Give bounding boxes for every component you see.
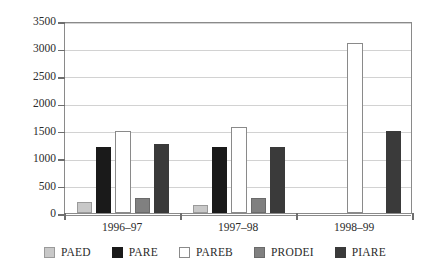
bar-group-1: [65, 23, 181, 213]
bar-paed-2: [193, 205, 208, 213]
y-tick-label-1000: 1000: [4, 153, 56, 165]
y-tick-label-2000: 2000: [4, 98, 56, 110]
bar-group-3: [297, 23, 413, 213]
legend-item-piare[interactable]: PIARE: [335, 247, 386, 259]
bar-paed-1: [77, 202, 92, 213]
y-tick-label-3000: 3000: [4, 43, 56, 55]
legend-swatch-paed-icon: [44, 247, 55, 258]
x-tick-start: [64, 213, 65, 220]
y-tick-label-2500: 2500: [4, 71, 56, 83]
y-tick-1500: [58, 132, 65, 133]
x-tick-label-1: 1996–97: [64, 222, 180, 234]
legend-swatch-piare-icon: [335, 247, 346, 258]
y-tick-2000: [58, 105, 65, 106]
y-tick-2500: [58, 77, 65, 78]
bar-piare-2: [270, 147, 285, 213]
y-tick-label-500: 500: [4, 181, 56, 193]
bar-pareb-3: [347, 43, 362, 213]
y-tick-label-3500: 3500: [4, 16, 56, 28]
y-tick-label-0: 0: [4, 208, 56, 220]
legend-swatch-pare-icon: [112, 247, 123, 258]
y-tick-label-1500: 1500: [4, 126, 56, 138]
legend-label-paed: PAED: [61, 247, 91, 259]
legend-label-pare: PARE: [129, 247, 158, 259]
y-tick-3500: [58, 22, 65, 23]
y-tick-3000: [58, 50, 65, 51]
x-tick-label-3: 1998–99: [296, 222, 412, 234]
chart-legend: PAEDPAREPAREBPRODEIPIARE: [0, 247, 430, 259]
bar-piare-3: [386, 131, 401, 213]
legend-swatch-prodei-icon: [254, 247, 265, 258]
bar-pare-2: [212, 147, 227, 213]
legend-item-prodei[interactable]: PRODEI: [254, 247, 314, 259]
bar-pareb-2: [231, 127, 246, 213]
legend-swatch-pareb-icon: [179, 247, 190, 258]
legend-label-pareb: PAREB: [196, 247, 233, 259]
bar-prodei-2: [251, 198, 266, 213]
legend-label-prodei: PRODEI: [271, 247, 314, 259]
y-tick-500: [58, 187, 65, 188]
legend-item-pare[interactable]: PARE: [112, 247, 158, 259]
bar-prodei-1: [135, 198, 150, 213]
x-tick-label-2: 1997–98: [180, 222, 296, 234]
bar-pare-1: [96, 147, 111, 213]
legend-item-paed[interactable]: PAED: [44, 247, 91, 259]
bar-piare-1: [154, 144, 169, 213]
x-tick-end: [412, 213, 413, 220]
gridline-0: [65, 215, 411, 216]
bar-group-2: [181, 23, 297, 213]
x-tick-1: [180, 213, 181, 220]
bar-chart: 0500100015002000250030003500 1996–971997…: [0, 0, 430, 278]
legend-label-piare: PIARE: [352, 247, 386, 259]
y-tick-1000: [58, 159, 65, 160]
bar-pareb-1: [115, 131, 130, 213]
x-tick-2: [296, 213, 297, 220]
plot-area: [64, 22, 412, 214]
legend-item-pareb[interactable]: PAREB: [179, 247, 233, 259]
